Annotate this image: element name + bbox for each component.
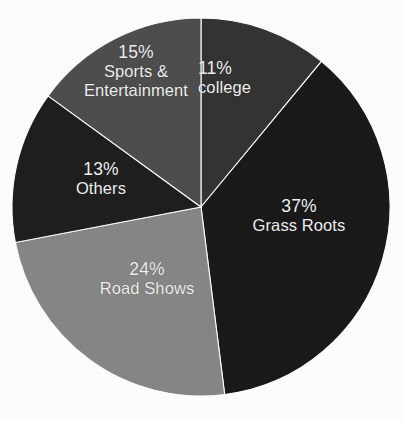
pie-slices-group <box>12 18 390 396</box>
pie-chart-canvas <box>0 0 404 421</box>
pie-chart: 11% college 37% Grass Roots 24% Road Sho… <box>0 0 404 421</box>
